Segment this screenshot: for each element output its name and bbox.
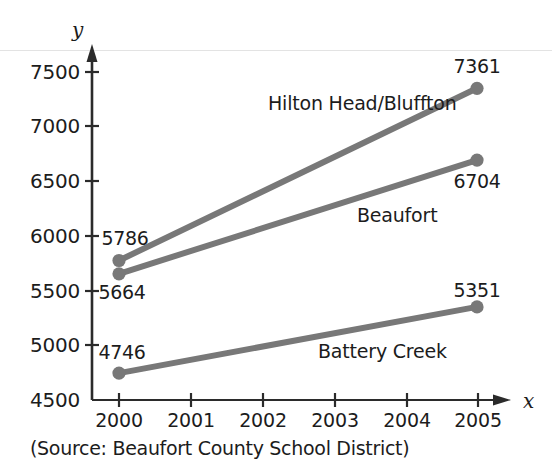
x-axis-name: x — [523, 389, 534, 413]
series-label-beaufort: Beaufort — [357, 204, 437, 226]
y-tick-label-5000: 5000 — [28, 333, 80, 357]
value-label-battery-2005: 5351 — [447, 279, 507, 301]
x-tick-label-2001: 2001 — [156, 409, 226, 431]
value-label-beaufort-2000: 5664 — [92, 281, 152, 303]
data-point-battery-2000 — [112, 367, 125, 380]
x-tick-label-2005: 2005 — [443, 409, 513, 431]
x-axis — [92, 395, 511, 406]
value-label-battery-2000: 4746 — [92, 341, 152, 363]
data-point-beaufort-2000 — [112, 267, 125, 280]
y-tick-label-7500: 7500 — [28, 60, 80, 84]
data-point-hilton-2005 — [470, 82, 483, 95]
data-point-battery-2005 — [470, 300, 483, 313]
value-label-hilton-2000: 5786 — [95, 227, 155, 249]
y-tick-label-7000: 7000 — [28, 114, 80, 138]
series-label-hilton-head-bluffton: Hilton Head/Bluffton — [268, 92, 457, 114]
value-label-beaufort-2005: 6704 — [447, 170, 507, 192]
line-graph-figure: y x 7500 7000 6500 6000 5500 5000 4500 2… — [0, 0, 552, 474]
x-tick-label-2003: 2003 — [300, 409, 370, 431]
y-tick-label-6000: 6000 — [28, 224, 80, 248]
x-tick-label-2004: 2004 — [372, 409, 442, 431]
series-label-battery-creek: Battery Creek — [318, 340, 447, 362]
value-label-hilton-2005: 7361 — [447, 55, 507, 77]
x-tick-label-2002: 2002 — [228, 409, 298, 431]
data-point-hilton-2000 — [112, 254, 125, 267]
source-note: (Source: Beaufort County School District… — [30, 437, 409, 459]
x-tick-label-2000: 2000 — [84, 409, 154, 431]
y-tick-label-4500: 4500 — [28, 388, 80, 412]
y-tick-label-5500: 5500 — [28, 279, 80, 303]
y-tick-label-6500: 6500 — [28, 169, 80, 193]
data-point-beaufort-2005 — [470, 154, 483, 167]
y-axis-name: y — [72, 18, 83, 42]
